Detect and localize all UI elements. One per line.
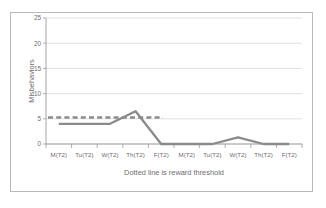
x-label-2: W(T2) xyxy=(101,151,118,158)
misbehaviors-series-line xyxy=(59,111,289,144)
x-label-3: Th(T2) xyxy=(126,151,145,158)
y-tick-label-0: 0 xyxy=(37,140,41,147)
misbehaviors-line-chart: 0 5 10 15 20 25 M(T2) Tu(T2) W(T2) Th(T2… xyxy=(0,0,326,208)
y-axis-title: Misbehaviors xyxy=(27,59,36,103)
gridlines xyxy=(46,18,302,144)
x-label-6: Tu(T2) xyxy=(203,151,221,158)
x-label-7: W(T2) xyxy=(229,151,246,158)
x-label-8: Th(T2) xyxy=(254,151,273,158)
x-label-5: M(T2) xyxy=(179,151,196,158)
y-tick-label-20: 20 xyxy=(34,40,42,47)
x-axis-title: Dotted line is reward threshold xyxy=(124,168,224,177)
figure-container: 0 5 10 15 20 25 M(T2) Tu(T2) W(T2) Th(T2… xyxy=(0,0,326,208)
x-label-4: F(T2) xyxy=(154,151,169,158)
x-label-0: M(T2) xyxy=(51,151,68,158)
y-tick-label-25: 25 xyxy=(34,14,42,21)
x-label-1: Tu(T2) xyxy=(75,151,93,158)
x-label-9: F(T2) xyxy=(282,151,297,158)
y-tick-label-5: 5 xyxy=(37,115,41,122)
